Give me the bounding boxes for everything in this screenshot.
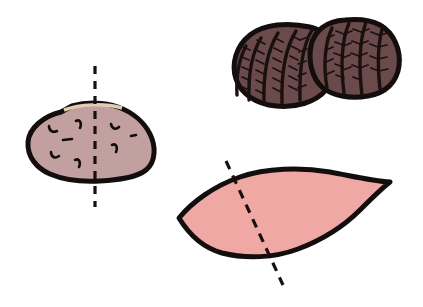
illustration-svg <box>0 0 423 307</box>
shells-object <box>234 20 399 107</box>
shell-right-group <box>310 20 399 98</box>
eye-mark-7 <box>131 135 136 136</box>
eye-mark-3 <box>63 139 72 140</box>
potato-outline <box>28 103 154 181</box>
figure-canvas <box>0 0 423 307</box>
